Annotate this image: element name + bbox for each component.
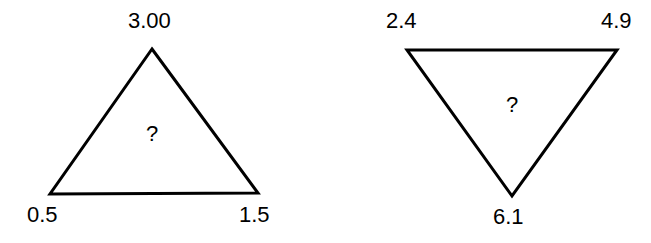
right-triangle-outline	[407, 50, 617, 196]
figure-canvas: 3.00 ? 0.5 1.5 2.4 4.9 ? 6.1	[0, 0, 651, 243]
left-triangle-bottom-left-label: 0.5	[27, 204, 58, 226]
right-triangle-top-left-label: 2.4	[386, 10, 417, 32]
right-triangle-center-mark: ?	[506, 94, 518, 116]
right-triangle-top-right-label: 4.9	[601, 10, 632, 32]
left-triangle-bottom-right-label: 1.5	[239, 204, 270, 226]
left-triangle-apex-label: 3.00	[128, 10, 171, 32]
right-triangle-bottom-label: 6.1	[493, 206, 524, 228]
triangles-vector-layer	[0, 0, 651, 243]
left-triangle-center-mark: ?	[146, 123, 158, 145]
